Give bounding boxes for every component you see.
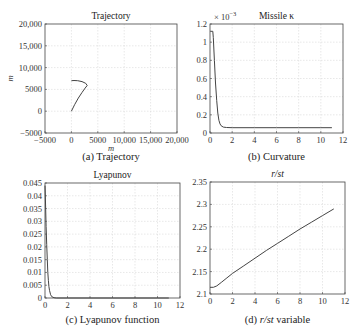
y-tick-label: 0 <box>38 106 42 116</box>
data-series-line <box>210 31 332 127</box>
y-tick-label: 0.8 <box>196 55 207 65</box>
plot-frame <box>210 182 345 294</box>
x-tick-label: 4 <box>88 300 93 310</box>
x-tick-label: 2 <box>230 296 234 306</box>
x-tick-label: 2 <box>65 300 69 310</box>
plot-title: Trajectory <box>91 11 130 21</box>
subplot-c: 02468101200.0050.010.0150.020.0250.030.0… <box>23 170 184 326</box>
x-tick-label: 8 <box>133 300 137 310</box>
x-tick-label: 20,000 <box>165 135 188 145</box>
subplot-a: −50000500010,00015,00020,000−50000500010… <box>5 11 189 163</box>
data-series-line <box>45 186 169 298</box>
y-tick-label: 2.3 <box>196 199 207 209</box>
exponent-label: × 10−3 <box>214 10 236 22</box>
y-tick-label: 10,000 <box>19 63 42 73</box>
y-tick-label: 1.2 <box>196 19 207 29</box>
y-tick-label: 0.6 <box>196 74 207 84</box>
subplot-caption: (c) Lyapunov function <box>66 314 161 326</box>
plot-title: r/st <box>271 169 284 179</box>
y-tick-label: 0.01 <box>27 267 42 277</box>
x-tick-label: 6 <box>274 135 278 145</box>
y-tick-label: 2.15 <box>192 267 207 277</box>
x-tick-label: 12 <box>339 135 348 145</box>
y-tick-label: 2.35 <box>192 177 207 187</box>
x-tick-label: 10 <box>318 296 327 306</box>
y-tick-label: 20,000 <box>19 19 42 29</box>
y-tick-label: 2.2 <box>196 244 207 254</box>
y-tick-label: 2.1 <box>196 289 207 299</box>
y-tick-label: 5000 <box>25 84 42 94</box>
y-tick-label: 0.045 <box>23 178 42 188</box>
x-tick-label: 4 <box>253 296 258 306</box>
y-tick-label: 0.2 <box>196 110 207 120</box>
y-axis-label: m <box>5 75 15 81</box>
y-tick-label: 0.005 <box>23 280 42 290</box>
x-tick-label: 15,000 <box>139 135 162 145</box>
x-tick-label: 12 <box>341 296 350 306</box>
y-tick-label: −5000 <box>20 128 42 138</box>
subplot-d: 0246810122.12.152.22.252.32.35r/st(d) r/… <box>192 169 349 326</box>
y-tick-label: 0 <box>203 128 207 138</box>
y-tick-label: 0.03 <box>27 216 42 226</box>
x-tick-label: 6 <box>275 296 279 306</box>
data-series-line <box>71 81 87 112</box>
data-series-line <box>210 209 334 287</box>
y-tick-label: 1 <box>203 37 207 47</box>
y-tick-label: 0.02 <box>27 242 42 252</box>
subplot-caption: (a) Trajectory <box>82 151 140 163</box>
x-tick-label: 12 <box>176 300 185 310</box>
x-tick-label: 0 <box>43 300 47 310</box>
x-tick-label: 10,000 <box>113 135 136 145</box>
y-tick-label: 0.025 <box>23 229 42 239</box>
subplot-caption: (b) Curvature <box>248 151 305 163</box>
plot-frame <box>45 24 177 133</box>
plot-title: Missile κ <box>259 11 294 21</box>
x-tick-label: 2 <box>230 135 234 145</box>
x-tick-label: 0 <box>208 135 212 145</box>
plot-title: Lyapunov <box>94 170 132 180</box>
y-tick-label: 0 <box>38 293 42 303</box>
subplot-b: 02468101200.20.40.60.811.2Missile κ× 10−… <box>196 10 347 163</box>
x-tick-label: 10 <box>153 300 162 310</box>
y-tick-label: 0.04 <box>27 191 43 201</box>
y-tick-label: 2.25 <box>192 222 207 232</box>
subplot-caption: (d) r/st variable <box>245 314 311 326</box>
y-tick-label: 15,000 <box>19 41 42 51</box>
y-tick-label: 0.4 <box>196 92 207 102</box>
x-tick-label: 5000 <box>89 135 106 145</box>
x-tick-label: 0 <box>69 135 73 145</box>
y-tick-label: 0.035 <box>23 204 42 214</box>
x-tick-label: 0 <box>208 296 212 306</box>
y-tick-label: 0.015 <box>23 255 42 265</box>
x-tick-label: 10 <box>317 135 326 145</box>
x-tick-label: 4 <box>252 135 257 145</box>
figure-canvas: −50000500010,00015,00020,000−50000500010… <box>0 0 364 333</box>
x-tick-label: 6 <box>110 300 114 310</box>
x-tick-label: 8 <box>298 296 302 306</box>
x-tick-label: 8 <box>297 135 301 145</box>
